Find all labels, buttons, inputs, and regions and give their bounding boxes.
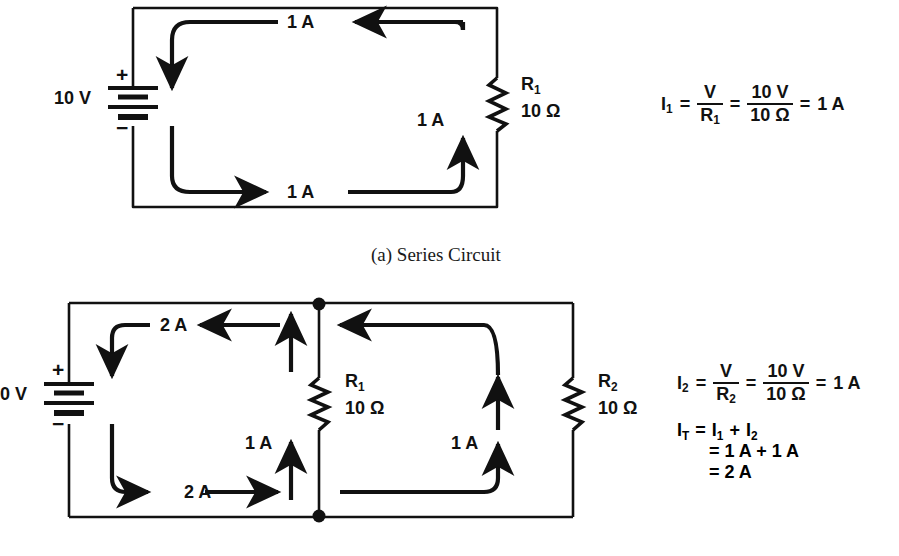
circuit-a-current-label-right: 1 A	[417, 111, 444, 129]
equation-it-line1: IT = I1 + I2	[677, 421, 799, 439]
circuit-a-current-label-bottom: 1 A	[287, 183, 314, 201]
equation-i2-denominator-r: R2	[713, 382, 739, 404]
circuit-b-source-label: 10 V	[0, 385, 27, 403]
circuit-a-current-arrows	[172, 14, 463, 192]
equation-i2-equals-1: =	[696, 374, 707, 392]
equation-i1-lhs: I1	[661, 95, 673, 113]
junction-dot-bottom	[313, 510, 326, 523]
circuit-a-source-label: 10 V	[54, 89, 91, 107]
circuit-b-plus-terminal: +	[52, 358, 64, 382]
circuit-b-minus-terminal: −	[52, 412, 64, 436]
equation-it-equals: =	[695, 421, 706, 439]
equation-it-lhs: IT	[677, 421, 689, 439]
equation-it-term-i1: I1	[712, 421, 724, 439]
equation-i1-fraction-vr: V R1	[697, 83, 723, 125]
junction-dot-top	[313, 298, 326, 311]
equation-it-term-i2: I2	[746, 421, 758, 439]
equation-i1-denominator-10ohm: 10 Ω	[747, 103, 792, 125]
battery-a-symbol	[108, 88, 158, 117]
equation-i2-fraction-values: 10 V 10 Ω	[763, 362, 808, 404]
equation-it-plus: +	[729, 421, 740, 439]
equation-i1-numerator-10v: 10 V	[748, 83, 791, 103]
equation-i1-fraction-values: 10 V 10 Ω	[747, 83, 792, 125]
equation-i2-equals-2: =	[746, 374, 757, 392]
equation-i1-result: 1 A	[817, 95, 844, 113]
equation-i1-numerator-v: V	[701, 83, 719, 103]
equation-i2-fraction-vr: V R2	[713, 362, 739, 404]
equation-i2: I2 = V R2 = 10 V 10 Ω = 1 A	[677, 362, 861, 404]
equation-i2-equals-3: =	[816, 374, 827, 392]
circuit-a-minus-terminal: −	[116, 116, 128, 140]
equation-i2-denominator-10ohm: 10 Ω	[763, 382, 808, 404]
equation-i1-denominator-r: R1	[697, 103, 723, 125]
resistor-b2-symbol	[565, 378, 582, 430]
equation-i2-numerator-v: V	[717, 362, 735, 382]
circuit-b-current-label-top-left: 2 A	[160, 316, 187, 334]
equation-it-line3: = 2 A	[677, 463, 799, 481]
circuit-a-current-label-top: 1 A	[287, 13, 314, 31]
circuit-a-plus-terminal: +	[116, 63, 128, 87]
circuit-a-resistor-value: 10 Ω	[521, 102, 560, 120]
circuit-b-current-label-middle: 1 A	[245, 434, 272, 452]
equation-i2-numerator-10v: 10 V	[764, 362, 807, 382]
circuit-a-resistor-ref: R1	[521, 75, 541, 93]
equation-i1-equals-3: =	[800, 95, 811, 113]
battery-b-symbol	[44, 384, 94, 413]
equation-i2-lhs: I2	[677, 374, 689, 392]
circuit-a-resistor-ref-sub: 1	[534, 83, 541, 97]
circuit-b-current-arrows	[112, 314, 498, 500]
equation-i2-result: 1 A	[833, 374, 860, 392]
equation-it-line2: = 1 A + 1 A	[677, 442, 799, 460]
circuit-a-resistor-ref-letter: R	[521, 74, 534, 94]
circuit-b-current-label-right: 1 A	[451, 434, 478, 452]
circuit-a-outline	[133, 8, 497, 207]
circuit-b-resistor1-ref: R1	[345, 372, 365, 390]
circuit-b-resistor1-value: 10 Ω	[345, 399, 384, 417]
resistor-a-symbol	[489, 78, 506, 131]
equation-i1-equals-2: =	[730, 95, 741, 113]
figure-canvas: 10 V + − 1 A 1 A 1 A R1 10 Ω I1 = V R1 =…	[0, 0, 899, 556]
equation-i1-equals-1: =	[680, 95, 691, 113]
equation-it: IT = I1 + I2 = 1 A + 1 A = 2 A	[677, 421, 799, 481]
circuit-b-resistor2-value: 10 Ω	[598, 399, 637, 417]
resistor-b1-symbol	[311, 378, 328, 430]
equation-i1: I1 = V R1 = 10 V 10 Ω = 1 A	[661, 83, 845, 125]
caption-series-circuit: (a) Series Circuit	[371, 244, 501, 266]
circuit-b-current-label-bottom-left: 2 A	[184, 483, 211, 501]
circuit-b-resistor2-ref: R2	[598, 372, 618, 390]
